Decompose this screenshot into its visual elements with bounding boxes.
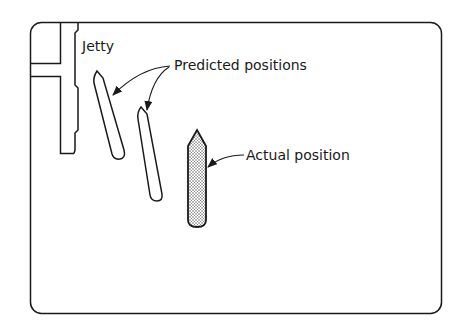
- jetty-structure: [31, 23, 78, 154]
- jetty-label: Jetty: [81, 38, 114, 54]
- arrow-to-predicted-1: [113, 66, 170, 95]
- predicted-ship-2: [138, 107, 162, 201]
- predicted-ship-1: [94, 71, 125, 159]
- arrow-to-actual: [208, 155, 244, 167]
- actual-position-label: Actual position: [246, 147, 350, 163]
- jetty-diagram: Jetty Predicted positions Actual positio…: [0, 0, 467, 334]
- actual-ship: [188, 130, 206, 227]
- arrow-to-predicted-2: [147, 67, 169, 110]
- predicted-positions-label: Predicted positions: [174, 57, 307, 73]
